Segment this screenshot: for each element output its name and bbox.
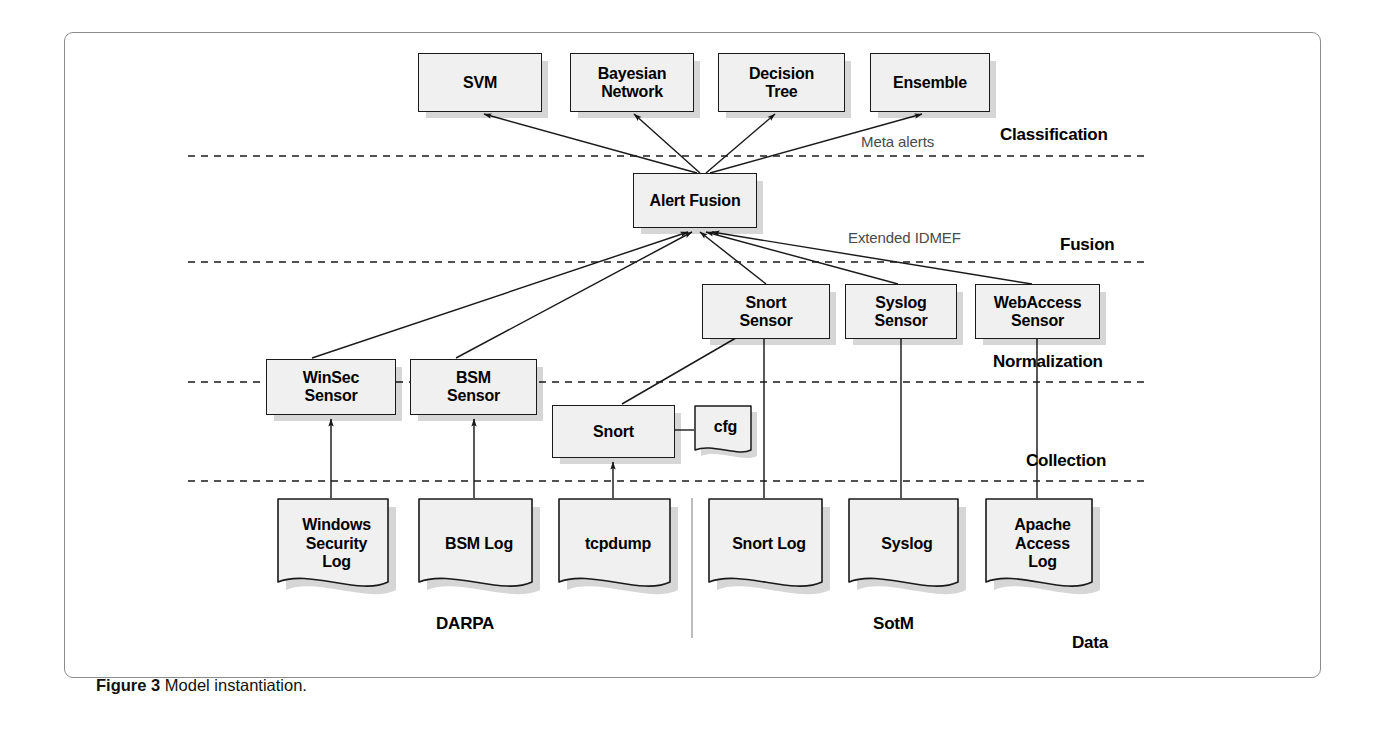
- classifier-node-decision-tree[interactable]: DecisionTree: [718, 53, 845, 112]
- data-source-syslog[interactable]: Syslog: [848, 498, 966, 604]
- data-source-snort-log[interactable]: Snort Log: [708, 498, 830, 604]
- layer-label-classification: Classification: [1000, 125, 1108, 145]
- collector-label-cfg: cfg: [708, 418, 743, 437]
- layer-label-fusion: Fusion: [1060, 235, 1115, 255]
- data-source-label-snort-log: Snort Log: [726, 535, 812, 554]
- sensor-node-bsm-sensor[interactable]: BSMSensor: [410, 359, 537, 415]
- collector-label-snort: Snort: [589, 423, 638, 441]
- sensor-node-syslog-sensor[interactable]: SyslogSensor: [845, 284, 957, 339]
- classifier-node-ensemble[interactable]: Ensemble: [870, 53, 990, 112]
- layer-label-data: Data: [1072, 633, 1108, 653]
- figure-caption-text: Model instantiation.: [165, 676, 307, 694]
- flow-label-meta-alerts: Meta alerts: [861, 133, 934, 150]
- collector-node-cfg[interactable]: cfg: [694, 405, 757, 463]
- layer-label-normalization: Normalization: [993, 352, 1103, 372]
- data-source-label-windows-security-log: WindowsSecurityLog: [296, 516, 377, 573]
- data-source-tcpdump[interactable]: tcpdump: [558, 498, 678, 604]
- collector-node-snort[interactable]: Snort: [552, 405, 675, 458]
- sensor-label-webaccess-sensor: WebAccessSensor: [990, 294, 1086, 330]
- data-source-label-syslog: Syslog: [875, 535, 938, 554]
- layer-label-collection: Collection: [1026, 451, 1106, 471]
- figure-caption-label: Figure 3: [96, 676, 160, 694]
- dataset-group-label-darpa: DARPA: [436, 614, 494, 634]
- figure-frame: [64, 32, 1321, 678]
- data-source-bsm-log[interactable]: BSM Log: [418, 498, 540, 604]
- figure-root: SVM BayesianNetwork DecisionTree Ensembl…: [0, 0, 1393, 740]
- data-source-apache-access-log[interactable]: ApacheAccessLog: [985, 498, 1100, 604]
- figure-caption: Figure 3 Model instantiation.: [96, 676, 307, 695]
- classifier-label-bayesian-network: BayesianNetwork: [594, 65, 671, 101]
- data-source-label-tcpdump: tcpdump: [579, 535, 657, 554]
- flow-label-extended-idmef: Extended IDMEF: [848, 229, 961, 246]
- classifier-node-bayesian-network[interactable]: BayesianNetwork: [570, 53, 694, 112]
- data-source-label-apache-access-log: ApacheAccessLog: [1008, 516, 1077, 573]
- data-source-label-bsm-log: BSM Log: [439, 535, 519, 554]
- classifier-label-svm: SVM: [459, 74, 501, 92]
- sensor-label-snort-sensor: SnortSensor: [735, 294, 796, 330]
- sensor-node-winsec-sensor[interactable]: WinSecSensor: [266, 359, 396, 415]
- classifier-label-ensemble: Ensemble: [889, 74, 971, 92]
- classifier-node-svm[interactable]: SVM: [418, 53, 542, 112]
- data-source-windows-security-log[interactable]: WindowsSecurityLog: [277, 498, 396, 604]
- dataset-group-label-sotm: SotM: [873, 614, 914, 634]
- sensor-label-winsec-sensor: WinSecSensor: [299, 369, 363, 405]
- fusion-node-label: Alert Fusion: [646, 192, 745, 210]
- sensor-node-webaccess-sensor[interactable]: WebAccessSensor: [975, 284, 1100, 339]
- classifier-label-decision-tree: DecisionTree: [745, 65, 818, 101]
- fusion-node-alert-fusion[interactable]: Alert Fusion: [633, 173, 757, 228]
- sensor-node-snort-sensor[interactable]: SnortSensor: [702, 284, 830, 339]
- sensor-label-syslog-sensor: SyslogSensor: [870, 294, 931, 330]
- sensor-label-bsm-sensor: BSMSensor: [443, 369, 504, 405]
